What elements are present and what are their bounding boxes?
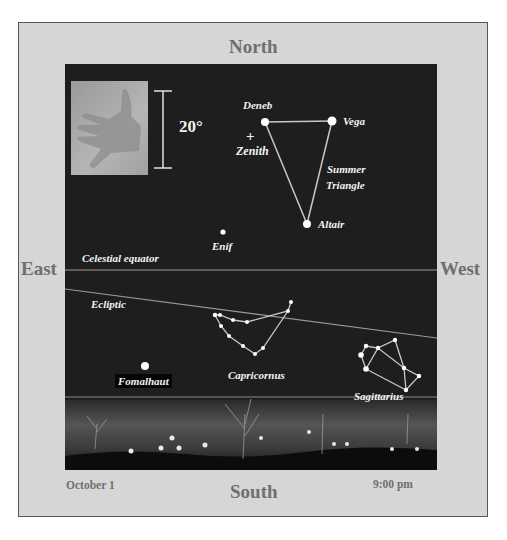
capricornus-stars: [213, 300, 293, 356]
date-label: October 1: [66, 479, 115, 491]
label-summer: Summer: [327, 163, 366, 175]
label-capricornus: Capricornus: [228, 369, 285, 381]
ecliptic-line: [65, 289, 437, 338]
label-sagittarius: Sagittarius: [354, 390, 404, 402]
direction-south: South: [230, 481, 278, 503]
zenith-marker: +: [246, 128, 255, 145]
scale-label: 20°: [179, 117, 203, 137]
label-ecliptic: Ecliptic: [91, 298, 126, 310]
star-vega: [328, 117, 337, 126]
scale-bar: [154, 91, 172, 168]
star-fomalhaut: [141, 362, 149, 370]
hand-photo: [71, 81, 148, 175]
hand-icon: [71, 81, 148, 175]
time-label: 9:00 pm: [373, 478, 413, 490]
label-deneb: Deneb: [243, 99, 272, 111]
label-enif: Enif: [212, 240, 232, 252]
direction-west: West: [440, 258, 480, 280]
direction-north: North: [229, 36, 278, 58]
label-celestial-equator: Celestial equator: [82, 252, 159, 264]
label-triangle: Triangle: [326, 179, 365, 191]
summer-triangle: [265, 121, 332, 224]
sky-panel: 20° Deneb Vega + Zenith Summer Triangle …: [65, 64, 437, 470]
direction-east: East: [21, 258, 57, 280]
label-zenith: Zenith: [236, 144, 269, 159]
star-deneb: [261, 118, 269, 126]
label-fomalhaut: Fomalhaut: [115, 374, 172, 388]
star-altair: [303, 220, 311, 228]
star-enif: [220, 229, 225, 234]
sagittarius-lines: [361, 340, 419, 390]
label-vega: Vega: [343, 115, 365, 127]
label-altair: Altair: [318, 218, 344, 230]
